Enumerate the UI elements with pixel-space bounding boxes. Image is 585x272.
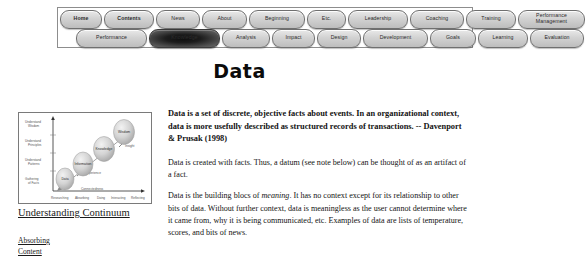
paragraph-data-created: Data is created with facts. Thus, a datu…	[168, 157, 470, 182]
nav-button-label: Knowledge	[171, 35, 198, 40]
svg-text:Information: Information	[75, 162, 92, 166]
nav-button-home[interactable]: Home	[60, 10, 102, 29]
nav-button-label: Impact	[285, 35, 301, 40]
nav-button-label: Evaluation	[544, 35, 569, 40]
nav-button-label: Analysis	[236, 35, 256, 40]
svg-text:Researching: Researching	[51, 196, 69, 200]
nav-button-label: Training	[481, 16, 500, 21]
link-content[interactable]: Content	[18, 247, 154, 258]
nav-button-label: Contents	[117, 16, 140, 21]
nav-button-knowledge[interactable]: Knowledge	[149, 29, 220, 48]
article-body: Data is a set of discrete, objective fac…	[168, 108, 470, 249]
nav-button-development[interactable]: Development	[363, 29, 428, 48]
nav-button-evaluation[interactable]: Evaluation	[530, 29, 584, 48]
nav-button-label: Design	[331, 35, 348, 40]
site-navigation-bar: HomeContentsNewsAboutBeginningEtc.Leader…	[57, 7, 473, 48]
left-sidebar-links: Absorbing Content	[18, 236, 154, 258]
svg-text:Absorbing: Absorbing	[75, 196, 89, 200]
diagram-svg: UnderstandWisdom UnderstandPrinciples Un…	[19, 113, 151, 203]
svg-text:Knowledge: Knowledge	[96, 147, 113, 151]
nav-button-coaching[interactable]: Coaching	[410, 10, 464, 29]
nav-button-training[interactable]: Training	[466, 10, 516, 29]
nav-button-design[interactable]: Design	[317, 29, 361, 48]
nav-row-secondary: PerformanceKnowledgeAnalysisImpactDesign…	[60, 29, 470, 47]
svg-text:Reflecting: Reflecting	[131, 196, 145, 200]
nav-button-goals[interactable]: Goals	[430, 29, 476, 48]
svg-text:Wisdom: Wisdom	[28, 124, 40, 128]
understanding-continuum-diagram: UnderstandWisdom UnderstandPrinciples Un…	[18, 112, 152, 204]
nav-button-performance[interactable]: Performance	[76, 29, 147, 48]
page-title: Data	[0, 60, 479, 82]
nav-button-label: Learning	[493, 35, 514, 40]
nav-button-leadership[interactable]: Leadership	[348, 10, 408, 29]
svg-text:Connectedness: Connectedness	[81, 187, 104, 191]
left-column: UnderstandWisdom UnderstandPrinciples Un…	[18, 112, 154, 258]
paragraph-building-blocks: Data is the building blocs of meaning. I…	[168, 190, 470, 239]
nav-button-label: Goals	[446, 35, 460, 40]
svg-text:Wisdom: Wisdom	[118, 130, 130, 134]
quote-paragraph: Data is a set of discrete, objective fac…	[168, 108, 470, 146]
nav-button-label: News	[171, 16, 184, 21]
svg-text:of Facts: of Facts	[28, 181, 39, 185]
nav-button-performance-management[interactable]: Performance Management	[518, 10, 585, 29]
svg-text:Interacting: Interacting	[111, 196, 126, 200]
link-absorbing[interactable]: Absorbing	[18, 236, 154, 247]
nav-button-analysis[interactable]: Analysis	[222, 29, 270, 48]
nav-button-label: Performance Management	[523, 13, 580, 25]
emphasis-meaning: meaning	[262, 191, 290, 200]
nav-button-contents[interactable]: Contents	[104, 10, 154, 29]
nav-button-label: Beginning	[265, 16, 289, 21]
svg-text:Insight: Insight	[125, 144, 135, 148]
nav-button-label: About	[217, 16, 231, 21]
nav-button-about[interactable]: About	[202, 10, 247, 29]
nav-button-news[interactable]: News	[156, 10, 200, 29]
nav-button-beginning[interactable]: Beginning	[249, 10, 305, 29]
nav-button-label: Etc.	[322, 16, 331, 21]
nav-button-label: Leadership	[365, 16, 392, 21]
nav-button-impact[interactable]: Impact	[272, 29, 315, 48]
nav-button-learning[interactable]: Learning	[478, 29, 528, 48]
nav-button-etc[interactable]: Etc.	[307, 10, 346, 29]
nav-button-label: Performance	[96, 35, 127, 40]
nav-button-label: Development	[380, 35, 412, 40]
diagram-caption-link[interactable]: Understanding Continuum	[18, 207, 154, 219]
svg-text:Data: Data	[61, 177, 68, 181]
nav-button-label: Coaching	[426, 16, 449, 21]
paragraph-text-part1: Data is the building blocs of	[168, 191, 262, 200]
nav-button-label: Home	[74, 16, 89, 21]
svg-text:Principles: Principles	[28, 143, 42, 147]
svg-text:Patterns: Patterns	[28, 162, 40, 166]
svg-text:Doing: Doing	[97, 196, 105, 200]
nav-row-primary: HomeContentsNewsAboutBeginningEtc.Leader…	[60, 10, 470, 28]
